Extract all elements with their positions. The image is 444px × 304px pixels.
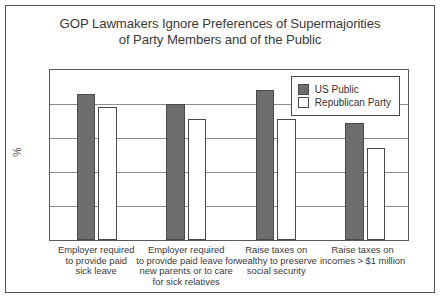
plot-area: US Public Republican Party xyxy=(49,69,409,241)
chart-title: GOP Lawmakers Ignore Preferences of Supe… xyxy=(6,16,434,48)
bar-republican-party-3 xyxy=(367,148,385,240)
x-label-line: Raise taxes on xyxy=(309,245,417,256)
legend-swatch-republican-party xyxy=(298,97,309,108)
legend-swatch-us-public xyxy=(298,84,309,95)
bar-us-public-0 xyxy=(77,94,95,240)
x-category-label-3: Raise taxes onincomes > $1 million xyxy=(309,245,417,266)
bar-us-public-2 xyxy=(256,90,274,240)
legend-label-us-public: US Public xyxy=(315,84,359,95)
legend-item-republican-party: Republican Party xyxy=(298,97,391,108)
chart-title-line-1: GOP Lawmakers Ignore Preferences of Supe… xyxy=(6,16,434,32)
chart-title-line-2: of Party Members and of the Public xyxy=(6,32,434,48)
legend-label-republican-party: Republican Party xyxy=(315,97,391,108)
legend-item-us-public: US Public xyxy=(298,84,391,95)
bar-republican-party-0 xyxy=(98,107,116,240)
bar-republican-party-1 xyxy=(188,119,206,240)
chart-figure: GOP Lawmakers Ignore Preferences of Supe… xyxy=(5,5,435,293)
bar-republican-party-2 xyxy=(277,119,295,240)
bar-us-public-3 xyxy=(345,123,363,240)
x-label-line: for sick relatives xyxy=(132,277,240,288)
bar-us-public-1 xyxy=(166,104,184,240)
y-axis-label: % xyxy=(11,147,23,156)
chart-legend: US Public Republican Party xyxy=(291,76,400,116)
x-label-line: social security xyxy=(222,266,330,277)
x-label-line: incomes > $1 million xyxy=(309,256,417,267)
